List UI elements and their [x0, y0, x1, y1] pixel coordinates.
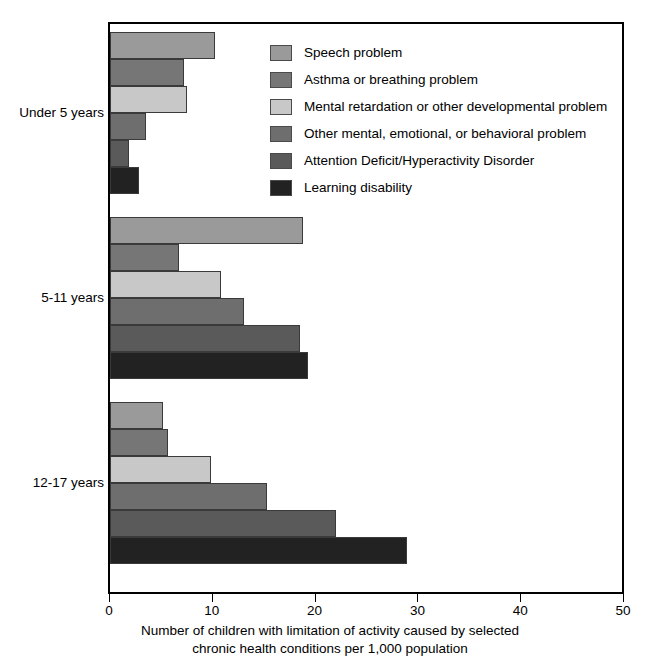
bar	[110, 325, 300, 352]
legend-swatch-icon	[270, 153, 292, 169]
bar	[110, 167, 139, 194]
legend-item-label: Speech problem	[304, 45, 402, 60]
x-tick-label: 50	[615, 603, 630, 618]
bar	[110, 86, 187, 113]
bar	[110, 217, 303, 244]
x-tick	[109, 594, 110, 602]
bar	[110, 402, 163, 429]
x-tick	[520, 594, 521, 602]
x-axis-caption: Number of children with limitation of ac…	[60, 622, 600, 658]
bar	[110, 352, 308, 379]
legend-item-label: Attention Deficit/Hyperactivity Disorder	[304, 153, 534, 168]
bar	[110, 140, 129, 167]
x-tick-label: 10	[204, 603, 219, 618]
x-tick-label: 0	[105, 603, 113, 618]
x-tick	[623, 594, 624, 602]
x-tick	[212, 594, 213, 602]
legend-swatch-icon	[270, 99, 292, 115]
legend-item-label: Asthma or breathing problem	[304, 72, 478, 87]
x-tick	[417, 594, 418, 602]
x-tick	[315, 594, 316, 602]
legend-item: Other mental, emotional, or behavioral p…	[270, 121, 630, 146]
legend-item: Learning disability	[270, 175, 630, 200]
legend-item: Mental retardation or other developmenta…	[270, 94, 630, 119]
bar	[110, 271, 221, 298]
x-tick-label: 20	[307, 603, 322, 618]
legend-swatch-icon	[270, 72, 292, 88]
legend-item-label: Mental retardation or other developmenta…	[304, 99, 607, 114]
bar	[110, 113, 146, 140]
x-axis-caption-line1: Number of children with limitation of ac…	[60, 622, 600, 640]
y-axis-label-12-17-years: 12-17 years	[4, 476, 104, 490]
x-tick-label: 30	[410, 603, 425, 618]
x-tick-label: 40	[513, 603, 528, 618]
y-axis-label-under-5-years: Under 5 years	[4, 106, 104, 120]
x-axis: 01020304050	[108, 594, 624, 624]
legend-item: Asthma or breathing problem	[270, 67, 630, 92]
legend-swatch-icon	[270, 126, 292, 142]
bar	[110, 59, 184, 86]
legend-swatch-icon	[270, 45, 292, 61]
bar	[110, 32, 215, 59]
legend: Speech problemAsthma or breathing proble…	[270, 40, 630, 202]
bar	[110, 537, 407, 564]
bar	[110, 244, 179, 271]
legend-item-label: Learning disability	[304, 180, 412, 195]
x-axis-caption-line2: chronic health conditions per 1,000 popu…	[60, 640, 600, 658]
bar	[110, 483, 267, 510]
bar	[110, 510, 336, 537]
bar	[110, 429, 168, 456]
bar-chart: Under 5 years5-11 years12-17 years 01020…	[0, 0, 651, 664]
legend-item: Speech problem	[270, 40, 630, 65]
legend-item-label: Other mental, emotional, or behavioral p…	[304, 126, 586, 141]
bar	[110, 298, 244, 325]
bar	[110, 456, 211, 483]
y-axis-label-5-11-years: 5-11 years	[4, 291, 104, 305]
legend-swatch-icon	[270, 180, 292, 196]
legend-item: Attention Deficit/Hyperactivity Disorder	[270, 148, 630, 173]
y-axis-group-labels: Under 5 years5-11 years12-17 years	[0, 22, 104, 594]
